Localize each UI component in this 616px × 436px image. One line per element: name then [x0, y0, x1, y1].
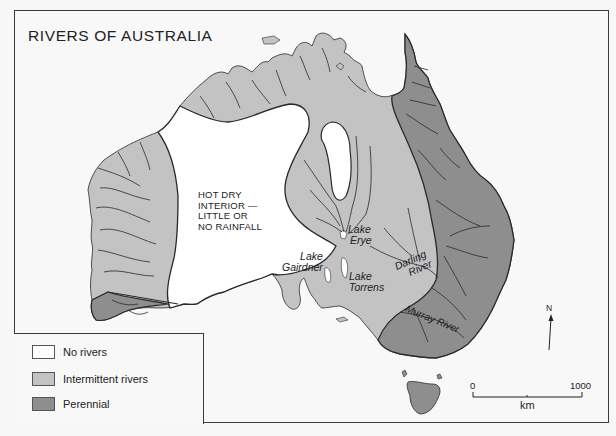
lake-torrens-label: Lake Torrens — [349, 271, 384, 293]
legend-item-intermittent: Intermittent rivers — [32, 372, 148, 386]
swatch-no-rivers — [32, 345, 55, 359]
lake-gairdner-line-2: Gairdner — [282, 262, 323, 273]
legend-item-perennial: Perennial — [32, 397, 109, 411]
island-kangaroo — [336, 317, 348, 322]
scale-start: 0 — [470, 380, 475, 391]
island-north — [262, 36, 280, 44]
lake-gairdner-label: Lake Gairdner — [282, 251, 323, 273]
interior-label: HOT DRY INTERIOR — LITTLE OR NO RAINFALL — [198, 190, 262, 232]
legend-item-no-rivers: No rivers — [32, 345, 107, 359]
swatch-perennial — [32, 397, 55, 411]
island-small-2 — [437, 374, 442, 379]
interior-line-4: NO RAINFALL — [198, 222, 262, 233]
scale-end: 1000 — [570, 380, 591, 391]
north-arrow-icon — [549, 314, 554, 350]
lake-erye-line-2: Erye — [348, 235, 372, 246]
legend-label-perennial: Perennial — [63, 398, 109, 410]
island-small-1 — [402, 370, 407, 377]
lake-torrens-line-2: Torrens — [349, 282, 384, 293]
interior-line-1: HOT DRY — [198, 190, 262, 201]
map-legend: No rivers Intermittent rivers Perennial — [14, 333, 204, 424]
legend-label-intermittent: Intermittent rivers — [63, 373, 148, 385]
lake-erye-label: Lake Erye — [348, 224, 372, 246]
swatch-intermittent — [32, 372, 55, 386]
scale-bar — [473, 392, 582, 397]
scale-unit: km — [520, 399, 535, 411]
legend-label-no-rivers: No rivers — [63, 346, 107, 358]
tasmania — [407, 381, 440, 414]
north-label: N — [546, 303, 552, 313]
